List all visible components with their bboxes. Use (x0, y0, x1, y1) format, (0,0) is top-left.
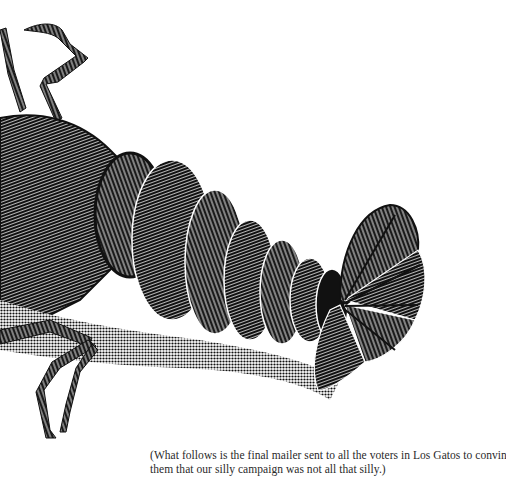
lobster-illustration (0, 0, 506, 440)
caption-line-1: (What follows is the final mailer sent t… (150, 448, 506, 462)
abdomen-segments (95, 153, 348, 344)
caption-line-2: them that our silly campaign was not all… (150, 462, 506, 476)
antenna-legs (0, 24, 88, 122)
caption: (What follows is the final mailer sent t… (150, 448, 506, 476)
